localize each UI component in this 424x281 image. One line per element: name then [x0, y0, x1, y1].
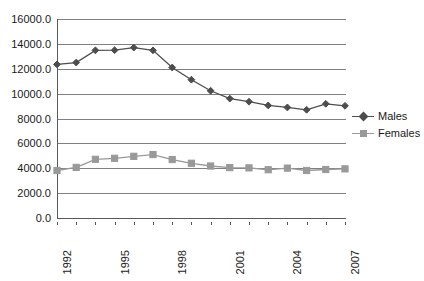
- x-axis-tick: [153, 222, 154, 225]
- x-axis-tick: [326, 222, 327, 225]
- y-axis-tick-label: 4000.0: [17, 163, 51, 174]
- plot-area: [57, 19, 346, 219]
- diamond-marker-icon: [303, 106, 310, 113]
- square-marker-icon: [284, 165, 290, 171]
- data-series-group: [57, 19, 346, 219]
- x-axis-tick: [345, 222, 346, 225]
- x-axis-tick: [57, 222, 58, 225]
- legend-key-females: [352, 129, 374, 139]
- square-marker-icon: [246, 165, 252, 171]
- square-marker-icon: [54, 167, 60, 173]
- diamond-marker-icon: [284, 104, 291, 111]
- y-axis-tick-labels: 0.02000.04000.06000.08000.010000.012000.…: [0, 19, 53, 219]
- square-marker-icon: [227, 165, 233, 171]
- diamond-marker-icon: [73, 59, 80, 66]
- square-marker-icon: [150, 151, 156, 157]
- x-axis-tick: [95, 222, 96, 225]
- square-marker-icon: [92, 156, 98, 162]
- x-axis-tick-label: 1992: [62, 250, 73, 274]
- chart-container: 0.02000.04000.06000.08000.010000.012000.…: [0, 0, 424, 281]
- x-axis-tick-labels: 199219951998200120042007: [57, 222, 346, 278]
- series-females: [54, 151, 348, 173]
- square-marker-icon: [304, 167, 310, 173]
- y-axis-tick-label: 14000.0: [11, 38, 51, 49]
- y-axis-tick-label: 10000.0: [11, 88, 51, 99]
- x-axis-tick: [115, 222, 116, 225]
- square-marker-icon: [73, 164, 79, 170]
- series-line: [57, 155, 345, 171]
- diamond-marker-icon: [207, 87, 214, 94]
- x-axis-tick: [307, 222, 308, 225]
- series-males: [54, 44, 349, 113]
- diamond-marker-icon: [322, 100, 329, 107]
- y-axis-tick-label: 0.0: [36, 213, 51, 224]
- diamond-marker-icon: [111, 47, 118, 54]
- y-axis-tick-label: 16000.0: [11, 14, 51, 25]
- legend-label-females: Females: [378, 128, 420, 139]
- x-axis-tick: [287, 222, 288, 225]
- diamond-marker-icon: [54, 61, 61, 68]
- y-axis-tick-label: 2000.0: [17, 188, 51, 199]
- diamond-marker-icon: [92, 47, 99, 54]
- x-axis-tick: [191, 222, 192, 225]
- diamond-marker-icon: [359, 111, 369, 121]
- square-marker-icon: [169, 156, 175, 162]
- y-axis-tick-label: 6000.0: [17, 138, 51, 149]
- x-axis-tick-label: 2007: [350, 250, 361, 274]
- x-axis-tick: [249, 222, 250, 225]
- legend-item-males[interactable]: Males: [352, 108, 424, 125]
- x-axis-tick: [211, 222, 212, 225]
- x-axis-tick-label: 1998: [177, 250, 188, 274]
- y-axis-tick-label: 12000.0: [11, 63, 51, 74]
- square-marker-icon: [360, 130, 367, 137]
- square-marker-icon: [323, 166, 329, 172]
- legend-item-females[interactable]: Females: [352, 125, 424, 142]
- y-axis-tick-label: 8000.0: [17, 113, 51, 124]
- square-marker-icon: [131, 153, 137, 159]
- diamond-marker-icon: [265, 102, 272, 109]
- series-line: [57, 48, 345, 110]
- chart-legend: Males Females: [352, 108, 424, 142]
- diamond-marker-icon: [188, 76, 195, 83]
- square-marker-icon: [342, 166, 348, 172]
- square-marker-icon: [265, 167, 271, 173]
- x-axis-tick: [268, 222, 269, 225]
- square-marker-icon: [112, 155, 118, 161]
- square-marker-icon: [208, 163, 214, 169]
- x-axis-tick-label: 2004: [292, 250, 303, 274]
- diamond-marker-icon: [226, 95, 233, 102]
- diamond-marker-icon: [130, 44, 137, 51]
- x-axis-tick: [76, 222, 77, 225]
- x-axis-tick: [172, 222, 173, 225]
- x-axis-tick: [134, 222, 135, 225]
- x-axis-tick: [230, 222, 231, 225]
- legend-label-males: Males: [378, 111, 407, 122]
- diamond-marker-icon: [342, 102, 349, 109]
- x-axis-tick-label: 1995: [120, 250, 131, 274]
- diamond-marker-icon: [246, 98, 253, 105]
- x-axis-tick-label: 2001: [235, 250, 246, 274]
- square-marker-icon: [188, 160, 194, 166]
- legend-key-males: [352, 112, 374, 122]
